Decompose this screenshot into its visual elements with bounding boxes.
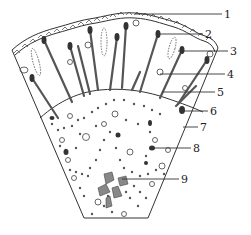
callout-2: 2 [205,28,212,41]
callout-5: 5 [217,86,224,99]
callout-3: 3 [230,45,237,58]
callout-labels: 1 2 3 4 5 6 7 8 9 [181,8,237,186]
callout-leaders [122,14,228,179]
callout-9: 9 [181,173,188,186]
callout-4: 4 [227,68,234,81]
callout-8: 8 [193,142,200,155]
wedge-cross-section-diagram: 1 2 3 4 5 6 7 8 9 [0,0,251,235]
crystal-clusters [98,172,128,208]
callout-6: 6 [210,105,217,118]
callout-7: 7 [200,121,207,134]
dark-cell-bodies [50,116,156,165]
dotted-elongated-cells [29,28,177,76]
callout-1: 1 [224,8,231,21]
